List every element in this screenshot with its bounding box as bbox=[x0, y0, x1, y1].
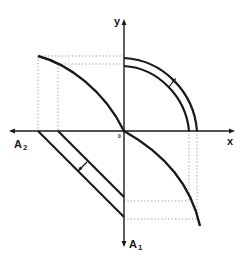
q1-arcs bbox=[124, 58, 197, 131]
a2-label-sub: 2 bbox=[23, 143, 28, 152]
x-arrow-icon bbox=[229, 129, 235, 134]
axes bbox=[9, 19, 235, 247]
q3-lines bbox=[38, 131, 124, 217]
a1-label-sub: 1 bbox=[138, 243, 143, 252]
y-arrow-icon bbox=[122, 19, 127, 25]
x-axis-label: x bbox=[227, 135, 234, 147]
q2-curve bbox=[38, 56, 124, 131]
a1-label-main: A bbox=[129, 238, 137, 250]
four-quadrant-diagram: y x 0 A2 A1 bbox=[0, 0, 248, 267]
q1-outer-arc bbox=[124, 58, 197, 131]
a2-label-main: A bbox=[14, 138, 22, 150]
origin-label: 0 bbox=[118, 133, 121, 139]
a2-label: A2 bbox=[14, 138, 28, 152]
a1-label: A1 bbox=[129, 238, 143, 252]
q3-inner-line bbox=[58, 131, 124, 197]
a1-arrow-icon bbox=[122, 241, 127, 247]
a2-arrow-icon bbox=[9, 129, 15, 134]
y-axis-label: y bbox=[114, 15, 121, 27]
q1-inner-arc bbox=[124, 66, 189, 131]
q3-outer-line bbox=[38, 131, 124, 217]
